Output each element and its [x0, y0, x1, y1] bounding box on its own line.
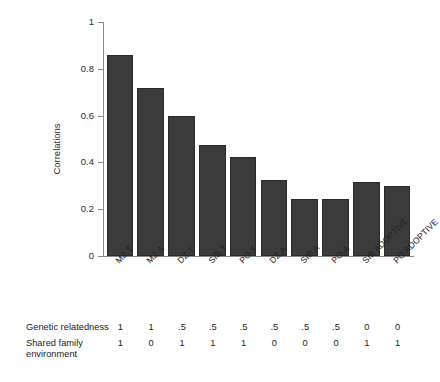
genetic-relatedness-value: 1: [108, 322, 132, 333]
y-tick-label: 0.6: [52, 111, 94, 121]
shared-label-line1: Shared family: [26, 338, 83, 348]
genetic-relatedness-value: .5: [170, 322, 194, 333]
y-tick-label: 0.8: [52, 64, 94, 74]
shared-environment-value: 1: [355, 338, 379, 349]
annotation-table: Genetic relatedness Shared familyenviron…: [0, 318, 431, 378]
y-tick-mark: [98, 256, 103, 257]
y-tick-mark: [98, 22, 103, 23]
shared-environment-value: 1: [201, 338, 225, 349]
y-axis-line: [103, 22, 104, 256]
genetic-relatedness-value: .5: [324, 322, 348, 333]
shared-environment-value: 0: [324, 338, 348, 349]
genetic-relatedness-value: 0: [386, 322, 410, 333]
genetic-relatedness-value: .5: [293, 322, 317, 333]
shared-environment-value: 0: [293, 338, 317, 349]
genetic-relatedness-value: 1: [139, 322, 163, 333]
y-tick-label: 0: [52, 251, 94, 261]
y-tick-mark: [98, 162, 103, 163]
y-tick-mark: [98, 116, 103, 117]
genetic-relatedness-value: .5: [201, 322, 225, 333]
y-tick-label: 0.2: [52, 204, 94, 214]
shared-environment-value: 1: [170, 338, 194, 349]
y-tick-label: 1: [52, 17, 94, 27]
shared-environment-value: 0: [262, 338, 286, 349]
genetic-relatedness-value: .5: [262, 322, 286, 333]
bar: [107, 55, 134, 256]
bar: [168, 116, 195, 256]
y-tick-label: 0.4: [52, 157, 94, 167]
shared-environment-value: 1: [108, 338, 132, 349]
shared-environment-value: 1: [386, 338, 410, 349]
shared-environment-value: 1: [232, 338, 256, 349]
shared-environment-value: 0: [139, 338, 163, 349]
bar: [230, 157, 257, 256]
y-tick-mark: [98, 69, 103, 70]
genetic-relatedness-value: .5: [232, 322, 256, 333]
y-tick-mark: [98, 209, 103, 210]
plot-area: [105, 22, 413, 256]
shared-label-line2: environment: [26, 349, 77, 359]
genetic-relatedness-value: 0: [355, 322, 379, 333]
bar: [137, 88, 164, 256]
bar: [261, 180, 288, 256]
bar: [199, 145, 226, 256]
